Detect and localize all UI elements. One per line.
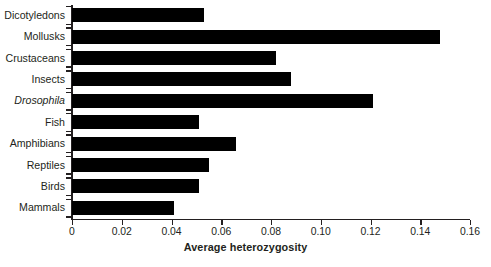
x-axis-tick <box>172 220 173 225</box>
x-axis-tick-label: 0.06 <box>211 226 231 238</box>
x-axis-tick <box>271 220 272 225</box>
category-tick <box>66 216 72 217</box>
bar <box>72 179 199 193</box>
bar-row <box>72 112 470 133</box>
bar-row <box>72 91 470 112</box>
x-axis-tick-label: 0.04 <box>161 226 181 238</box>
bar-row <box>72 198 470 219</box>
category-label: Mammals <box>0 202 65 213</box>
category-label: Birds <box>0 181 65 192</box>
category-tick <box>66 134 72 135</box>
bar <box>72 8 204 22</box>
x-axis-tick-label: 0.10 <box>311 226 331 238</box>
category-axis-labels: DicotyledonsMollusksCrustaceansInsectsDr… <box>0 0 65 267</box>
bar <box>72 51 276 65</box>
category-tick <box>66 24 72 25</box>
category-tick <box>66 173 72 174</box>
bar-row <box>72 69 470 90</box>
bar <box>72 115 199 129</box>
category-tick <box>66 113 72 114</box>
x-axis-tick-label: 0.02 <box>112 226 132 238</box>
plot-area <box>72 5 470 219</box>
category-tick <box>66 152 72 153</box>
bar-row <box>72 48 470 69</box>
bar <box>72 72 291 86</box>
category-tick <box>66 195 72 196</box>
bar-row <box>72 5 470 26</box>
bar <box>72 201 174 215</box>
bar <box>72 30 440 44</box>
x-axis-tick-label: 0 <box>69 226 75 238</box>
category-tick <box>66 27 72 28</box>
category-tick <box>66 131 72 132</box>
category-label: Drosophila <box>0 95 65 106</box>
category-label: Amphibians <box>0 138 65 149</box>
bar <box>72 137 236 151</box>
x-axis-tick-label: 0.12 <box>360 226 380 238</box>
bar <box>72 158 209 172</box>
category-tick <box>66 88 72 89</box>
category-tick <box>66 156 72 157</box>
category-tick <box>66 177 72 178</box>
category-tick <box>66 70 72 71</box>
x-axis-tick <box>72 220 73 225</box>
bar-row <box>72 133 470 154</box>
category-label: Fish <box>0 117 65 128</box>
category-label: Insects <box>0 74 65 85</box>
category-tick <box>66 6 72 7</box>
category-tick <box>66 66 72 67</box>
category-label: Reptiles <box>0 160 65 171</box>
x-axis-tick <box>420 220 421 225</box>
bar-row <box>72 176 470 197</box>
category-tick <box>66 45 72 46</box>
x-axis-tick <box>470 220 471 225</box>
x-axis-tick <box>371 220 372 225</box>
bar-row <box>72 26 470 47</box>
x-axis-title: Average heterozygosity <box>0 241 491 253</box>
category-tick <box>66 49 72 50</box>
x-axis-tick <box>321 220 322 225</box>
bar-row <box>72 155 470 176</box>
bar <box>72 94 373 108</box>
x-axis-tick-label: 0.14 <box>410 226 430 238</box>
category-label: Mollusks <box>0 31 65 42</box>
category-tick <box>66 92 72 93</box>
category-tick <box>66 109 72 110</box>
x-axis-tick <box>122 220 123 225</box>
category-label: Dicotyledons <box>0 10 65 21</box>
x-axis-tick <box>221 220 222 225</box>
category-label: Crustaceans <box>0 53 65 64</box>
category-tick <box>66 199 72 200</box>
x-axis-tick-label: 0.08 <box>261 226 281 238</box>
x-axis-tick-label: 0.16 <box>460 226 480 238</box>
bar-chart: DicotyledonsMollusksCrustaceansInsectsDr… <box>0 0 491 267</box>
